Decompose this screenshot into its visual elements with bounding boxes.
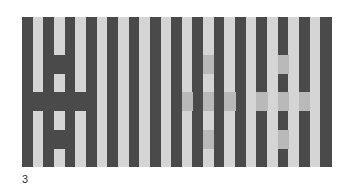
middle-cross-band-segment (203, 92, 214, 111)
left-cross-band-segment (75, 92, 86, 111)
dark-stripe (235, 17, 246, 167)
dark-stripe (150, 17, 161, 167)
light-stripe (161, 17, 172, 167)
middle-cross-band-segment (224, 92, 235, 111)
right-cross-vertical-segment (278, 55, 289, 74)
light-stripe (97, 17, 108, 167)
dark-stripe (129, 17, 140, 167)
light-stripe (118, 17, 129, 167)
light-stripe (267, 17, 278, 167)
light-stripe (139, 17, 150, 167)
left-cross-band-segment (33, 92, 44, 111)
dark-stripe (171, 17, 182, 167)
dark-stripe (86, 17, 97, 167)
dark-stripe (65, 17, 76, 167)
light-stripe (310, 17, 321, 167)
right-cross-vertical-segment (278, 130, 289, 149)
striped-illusion-figure (22, 17, 331, 167)
middle-cross-band-segment (182, 92, 193, 111)
right-cross-band-segment (299, 92, 310, 111)
dark-stripe (192, 17, 203, 167)
middle-cross-vertical-segment (203, 55, 214, 74)
figure-label: 3 (22, 173, 28, 185)
left-cross-vertical-segment (54, 130, 65, 149)
dark-stripe (22, 17, 33, 167)
right-cross-band-segment (256, 92, 267, 111)
left-cross-vertical-segment (54, 55, 65, 74)
dark-stripe (107, 17, 118, 167)
dark-stripe (214, 17, 225, 167)
right-cross-band-segment (278, 92, 289, 111)
dark-stripe (43, 17, 54, 167)
dark-stripe (320, 17, 331, 167)
light-stripe (246, 17, 257, 167)
middle-cross-vertical-segment (203, 130, 214, 149)
left-cross-band-segment (54, 92, 65, 111)
light-stripe (288, 17, 299, 167)
